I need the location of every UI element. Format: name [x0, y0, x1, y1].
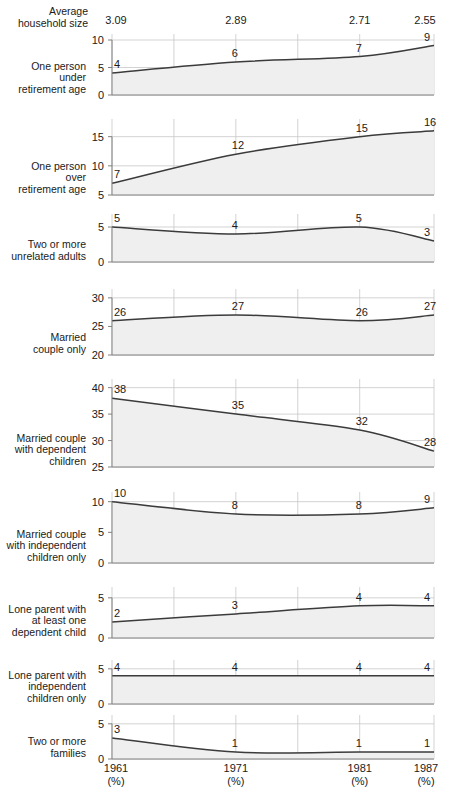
ytick-0-0: 0	[78, 89, 104, 101]
data-label-2-1981: 5	[356, 212, 362, 224]
data-label-4-1971: 35	[232, 399, 244, 411]
panel-label-1: One person over retirement age	[0, 161, 86, 196]
series-area-6	[112, 605, 434, 638]
panel-label-2: Two or more unrelated adults	[0, 239, 86, 262]
panel-5: Married couple with independent children…	[0, 498, 451, 563]
panel-0: One person under retirement age05104679	[0, 40, 451, 95]
ytick-3-20: 20	[78, 349, 104, 361]
ytick-5-5: 5	[78, 526, 104, 538]
panel-6: Lone parent with at least one dependent …	[0, 593, 451, 638]
data-label-3-1981: 26	[356, 306, 368, 318]
data-label-7-1981: 4	[356, 661, 362, 673]
data-label-2-1971: 4	[232, 219, 238, 231]
plot-area-0	[112, 40, 440, 97]
panel-1: One person over retirement age5101571215…	[0, 125, 451, 195]
ytick-4-35: 35	[78, 408, 104, 420]
panel-label-3: Married couple only	[0, 332, 86, 355]
ytick-5-10: 10	[78, 496, 104, 508]
data-label-6-1987: 4	[424, 591, 430, 603]
panel-3: Married couple only20253026272627	[0, 295, 451, 355]
ytick-4-40: 40	[78, 382, 104, 394]
x-tick-1987: 1987 (%)	[414, 762, 438, 787]
y-spine-1	[108, 137, 112, 195]
data-label-5-1981: 8	[356, 499, 362, 511]
data-label-7-1987: 4	[424, 661, 430, 673]
data-label-5-1971: 8	[232, 499, 238, 511]
series-area-1	[112, 131, 434, 195]
panel-label-0: One person under retirement age	[0, 61, 86, 96]
data-label-6-1961: 2	[114, 607, 120, 619]
data-label-6-1971: 3	[232, 599, 238, 611]
data-label-8-1961: 3	[114, 723, 120, 735]
data-label-6-1981: 4	[356, 591, 362, 603]
series-area-8	[112, 738, 434, 759]
data-label-7-1961: 4	[114, 661, 120, 673]
x-tick-1971: 1971 (%)	[224, 762, 248, 787]
panel-8: Two or more families053111	[0, 721, 451, 759]
panel-2: Two or more unrelated adults055453	[0, 220, 451, 262]
data-label-3-1961: 26	[114, 306, 126, 318]
data-label-2-1961: 5	[114, 212, 120, 224]
ytick-2-0: 0	[78, 256, 104, 268]
ytick-1-10: 10	[78, 160, 104, 172]
panel-label-6: Lone parent with at least one dependent …	[0, 604, 86, 639]
y-spine-6	[108, 598, 112, 638]
ytick-3-30: 30	[78, 292, 104, 304]
y-spine-4	[108, 388, 112, 467]
ytick-2-5: 5	[78, 221, 104, 233]
plot-area-4	[112, 385, 440, 469]
plot-area-8	[112, 721, 440, 761]
panel-4: Married couple with dependent children25…	[0, 385, 451, 467]
header-value-1981: 2.71	[349, 14, 370, 26]
y-spine-8	[108, 724, 112, 759]
data-label-1-1987: 16	[424, 116, 436, 128]
ytick-6-0: 0	[78, 632, 104, 644]
plot-area-6	[112, 593, 440, 640]
plot-area-5	[112, 498, 440, 565]
panel-label-5: Married couple with independent children…	[0, 529, 86, 564]
header-value-1961: 3.09	[105, 14, 126, 26]
header-title: Average household size	[0, 6, 88, 29]
x-tick-1981: 1981 (%)	[347, 762, 371, 787]
data-label-4-1981: 32	[356, 415, 368, 427]
y-spine-5	[108, 502, 112, 563]
ytick-1-15: 15	[78, 131, 104, 143]
data-label-0-1981: 7	[356, 42, 362, 54]
data-label-0-1987: 9	[424, 31, 430, 43]
data-label-3-1971: 27	[232, 300, 244, 312]
plot-area-3	[112, 295, 440, 357]
series-area-5	[112, 502, 434, 563]
ytick-0-5: 5	[78, 62, 104, 74]
data-label-2-1987: 3	[424, 226, 430, 238]
plot-area-1	[112, 125, 440, 197]
x-tick-1961: 1961 (%)	[104, 762, 128, 787]
data-label-8-1981: 1	[356, 737, 362, 749]
series-area-3	[112, 315, 434, 355]
ytick-1-5: 5	[78, 189, 104, 201]
y-spine-7	[108, 669, 112, 704]
data-label-1-1961: 7	[114, 168, 120, 180]
data-label-0-1961: 4	[114, 58, 120, 70]
data-label-8-1971: 1	[232, 737, 238, 749]
ytick-7-5: 5	[78, 663, 104, 675]
data-label-1-1971: 12	[232, 139, 244, 151]
ytick-6-5: 5	[78, 592, 104, 604]
y-spine-2	[108, 227, 112, 262]
series-area-4	[112, 398, 434, 467]
ytick-0-10: 10	[78, 34, 104, 46]
ytick-4-25: 25	[78, 461, 104, 473]
panel-label-8: Two or more families	[0, 736, 86, 759]
plot-area-7	[112, 666, 440, 706]
plot-area-2	[112, 220, 440, 264]
data-label-5-1987: 9	[424, 493, 430, 505]
series-area-7	[112, 676, 434, 704]
ytick-7-0: 0	[78, 698, 104, 710]
y-spine-3	[108, 298, 112, 355]
data-label-8-1987: 1	[424, 737, 430, 749]
data-label-0-1971: 6	[232, 47, 238, 59]
data-label-1-1981: 15	[356, 122, 368, 134]
header-value-1987: 2.55	[414, 14, 435, 26]
data-label-5-1961: 10	[114, 487, 126, 499]
ytick-3-25: 25	[78, 320, 104, 332]
header-value-1971: 2.89	[225, 14, 246, 26]
